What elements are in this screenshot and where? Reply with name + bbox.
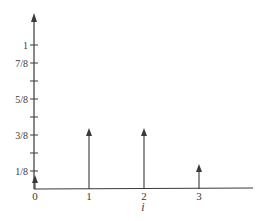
y-tick-label: 7/8 bbox=[15, 58, 28, 69]
stem-arrow-icon bbox=[196, 164, 202, 172]
stem-arrows bbox=[32, 128, 202, 189]
stem-arrow-icon bbox=[86, 128, 92, 136]
x-tick-label: 1 bbox=[86, 190, 92, 202]
x-axis-ticks: 0123 bbox=[32, 190, 202, 202]
stem-arrow-icon bbox=[32, 175, 38, 183]
y-tick-label: 3/8 bbox=[15, 130, 28, 141]
y-tick-label: 1/8 bbox=[15, 166, 28, 177]
x-tick-label: 3 bbox=[196, 190, 202, 202]
x-tick-label: 0 bbox=[32, 190, 38, 202]
probability-stem-chart: 1/83/85/87/81 0123 i bbox=[0, 0, 264, 221]
y-axis-arrow-icon bbox=[31, 13, 37, 22]
stem-arrow-icon bbox=[141, 128, 147, 136]
x-axis-label: i bbox=[141, 200, 144, 214]
y-tick-label: 1 bbox=[23, 40, 28, 51]
y-tick-label: 5/8 bbox=[15, 94, 28, 105]
axes bbox=[31, 13, 253, 189]
